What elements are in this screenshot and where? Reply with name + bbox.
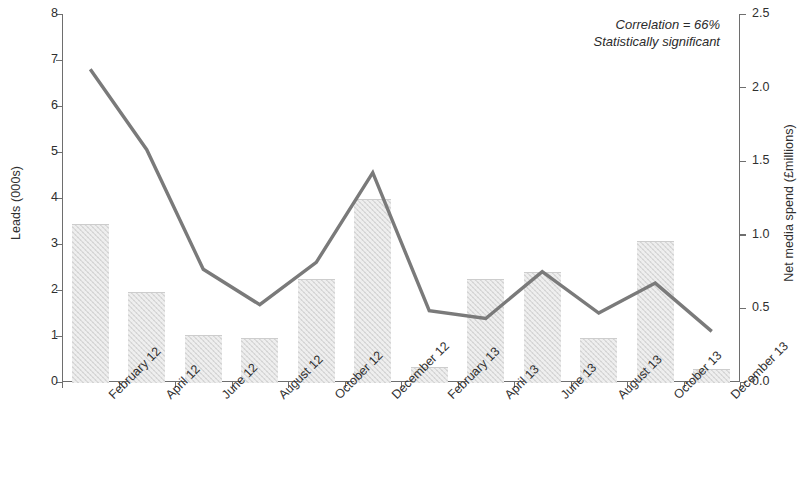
left-tick-label-6: 6 xyxy=(18,98,58,112)
right-tick-label-2.0: 2.0 xyxy=(752,80,800,94)
left-tick-label-7: 7 xyxy=(18,52,58,66)
left-tick-label-4: 4 xyxy=(18,190,58,204)
right-tick-2.5 xyxy=(740,14,746,15)
x-tick-0 xyxy=(62,382,63,388)
right-tick-1.0 xyxy=(740,234,746,235)
x-axis-label-april-12: April 12 xyxy=(163,392,173,402)
x-axis-label-october-12: October 12 xyxy=(332,392,342,402)
left-tick-label-3: 3 xyxy=(18,236,58,250)
left-tick-label-5: 5 xyxy=(18,144,58,158)
x-axis-label-october-13: October 13 xyxy=(671,392,681,402)
left-tick-label-8: 8 xyxy=(18,6,58,20)
leads-line xyxy=(90,69,712,331)
x-axis-label-february-13: February 13 xyxy=(445,392,455,402)
x-axis-label-august-13: August 13 xyxy=(615,392,625,402)
x-axis-label-december-12: December 12 xyxy=(389,392,399,402)
right-tick-label-1.5: 1.5 xyxy=(752,153,800,167)
left-tick-label-2: 2 xyxy=(18,282,58,296)
right-tick-0.5 xyxy=(740,308,746,309)
x-axis-label-june-13: June 13 xyxy=(558,392,568,402)
left-tick-label-1: 1 xyxy=(18,328,58,342)
y-axis-right-title: Net media spend (£millions) xyxy=(782,108,796,298)
right-tick-1.5 xyxy=(740,161,746,162)
x-axis-label-december-13: December 13 xyxy=(728,392,738,402)
left-tick-label-0: 0 xyxy=(18,374,58,388)
x-axis-label-june-12: June 12 xyxy=(219,392,229,402)
chart-container: Leads (000s) Net media spend (£millions)… xyxy=(0,0,810,486)
right-tick-label-2.5: 2.5 xyxy=(752,6,800,20)
right-tick-2.0 xyxy=(740,87,746,88)
right-tick-label-1.0: 1.0 xyxy=(752,227,800,241)
line-series-layer xyxy=(62,14,740,382)
plot-area: 012345678 0.00.51.01.52.02.5 February 12… xyxy=(62,14,740,382)
right-tick-label-0.5: 0.5 xyxy=(752,300,800,314)
x-axis-label-april-13: April 13 xyxy=(502,392,512,402)
x-axis-label-august-12: August 12 xyxy=(276,392,286,402)
x-axis-label-february-12: February 12 xyxy=(106,392,116,402)
